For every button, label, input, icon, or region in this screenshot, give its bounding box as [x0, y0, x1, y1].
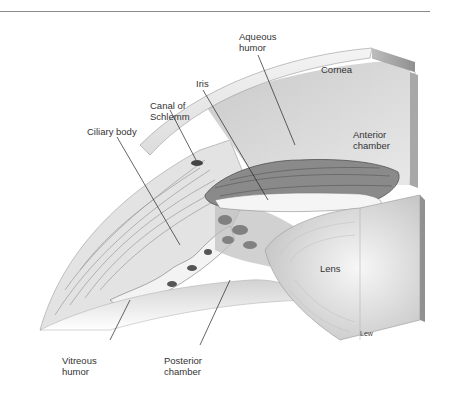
- label-ciliary-body: Ciliary body: [87, 126, 137, 137]
- label-vitreous-humor: Vitreous humor: [62, 355, 97, 377]
- label-canal-of-schlemm: Canal of Schlemm: [150, 100, 190, 122]
- eye-illustration: [0, 0, 452, 400]
- label-aqueous-humor: Aqueous humor: [239, 31, 277, 53]
- illustrator-credit: Lew: [360, 330, 373, 337]
- label-anterior-chamber: Anterior chamber: [353, 129, 390, 151]
- label-lens: Lens: [320, 263, 341, 274]
- label-posterior-chamber: Posterior chamber: [164, 355, 202, 377]
- label-iris: Iris: [196, 78, 209, 89]
- label-cornea: Cornea: [321, 64, 352, 75]
